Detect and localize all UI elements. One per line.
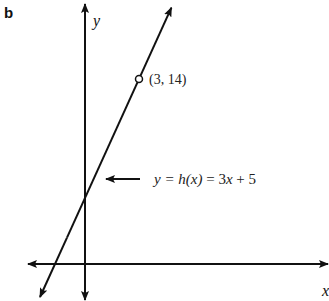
data-point bbox=[136, 76, 143, 83]
equation-label: y = h(x) = 3x + 5 bbox=[152, 171, 256, 188]
y-axis-label: y bbox=[91, 12, 101, 30]
point-label: (3, 14) bbox=[149, 72, 187, 88]
x-axis-label: x bbox=[321, 282, 329, 299]
graph-figure: b y x (3, 14) y = h(x) = 3x + 5 bbox=[0, 0, 329, 301]
function-line-lower bbox=[40, 238, 67, 297]
panel-label: b bbox=[4, 4, 13, 21]
function-line bbox=[67, 8, 171, 238]
